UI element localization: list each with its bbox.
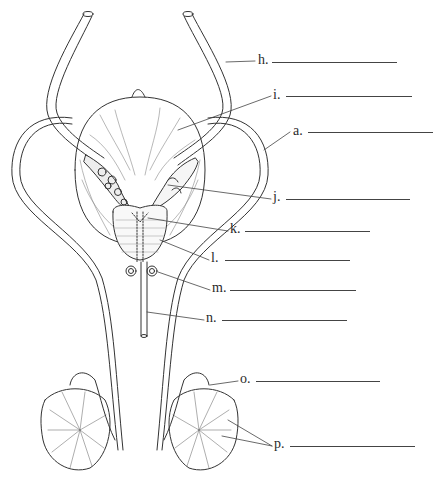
answer-blank-a[interactable] — [308, 132, 433, 133]
answer-blank-k[interactable] — [245, 231, 370, 232]
label-l: l. — [211, 251, 218, 265]
label-p: p. — [274, 437, 285, 451]
label-k: k. — [230, 222, 241, 236]
answer-blank-h[interactable] — [272, 62, 397, 63]
answer-blank-o[interactable] — [256, 381, 380, 382]
label-m: m. — [212, 281, 226, 295]
label-j: j. — [273, 190, 280, 204]
answer-blank-l[interactable] — [225, 260, 350, 261]
spermatic-cord — [12, 117, 268, 450]
label-i: i. — [273, 88, 280, 102]
ductus-deferens — [47, 12, 232, 166]
urethra — [141, 262, 147, 338]
anatomy-illustration — [0, 0, 439, 482]
answer-blank-m[interactable] — [230, 290, 356, 291]
testis-right — [164, 373, 238, 470]
label-n: n. — [206, 311, 217, 325]
answer-blank-i[interactable] — [286, 96, 412, 97]
answer-blank-j[interactable] — [286, 199, 410, 200]
answer-blank-p[interactable] — [290, 446, 415, 447]
testis-left — [41, 373, 115, 470]
label-h: h. — [258, 53, 269, 67]
prostate — [113, 205, 167, 262]
label-a: a. — [293, 124, 303, 138]
answer-blank-n[interactable] — [222, 320, 347, 321]
label-o: o. — [240, 372, 251, 386]
